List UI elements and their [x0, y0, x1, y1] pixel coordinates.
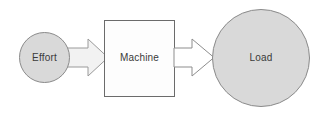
diagram-canvas: Effort Machine Load	[0, 0, 326, 119]
effort-label: Effort	[32, 52, 57, 63]
node-load[interactable]: Load	[213, 10, 310, 107]
block-arrow-icon	[174, 39, 214, 76]
block-arrow-icon	[66, 39, 108, 76]
connector-effort-to-machine[interactable]	[66, 39, 108, 76]
node-machine[interactable]: Machine	[105, 21, 175, 97]
connector-machine-to-load[interactable]	[174, 39, 214, 76]
load-label: Load	[249, 52, 272, 63]
node-effort[interactable]: Effort	[20, 33, 70, 83]
machine-label: Machine	[120, 52, 159, 63]
